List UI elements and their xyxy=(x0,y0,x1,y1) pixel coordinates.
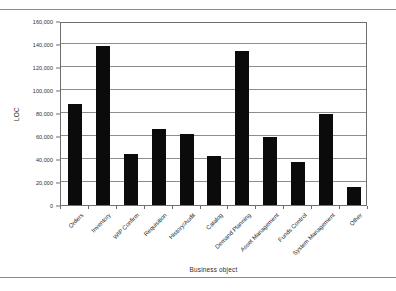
y-tick-label: 160,000 xyxy=(33,19,53,25)
bar-slot xyxy=(61,23,89,205)
bar xyxy=(207,156,221,205)
x-tick-mark xyxy=(255,206,256,209)
bar-group xyxy=(61,23,366,205)
bar xyxy=(235,51,249,205)
x-tick-label-text: Catalog xyxy=(205,212,224,231)
y-tick-label: 20,000 xyxy=(36,180,53,186)
y-axis-title: LOC xyxy=(13,107,20,121)
bar-slot xyxy=(89,23,117,205)
bar-slot xyxy=(228,23,256,205)
x-tick-label-text: Requisition xyxy=(143,212,168,237)
x-tick-mark xyxy=(367,206,368,209)
x-tick-mark xyxy=(172,206,173,209)
x-tick-mark xyxy=(116,206,117,209)
x-tick-mark xyxy=(311,206,312,209)
bar-slot xyxy=(173,23,201,205)
x-tick-label-text: History/Audit xyxy=(168,212,196,240)
y-tick-label: 100,000 xyxy=(33,88,53,94)
bar xyxy=(263,137,277,205)
bar xyxy=(124,154,138,205)
bar-slot xyxy=(256,23,284,205)
x-axis-title: Business object xyxy=(60,266,367,273)
bar xyxy=(319,114,333,205)
bar-slot xyxy=(117,23,145,205)
x-tick-label-text: Funds Control xyxy=(277,212,308,243)
page-rule-bottom xyxy=(0,277,396,278)
x-tick-label-text: Inventory xyxy=(91,212,113,234)
x-tick-mark xyxy=(60,206,61,209)
bar-slot xyxy=(201,23,229,205)
bar-chart-figure: LOC 020,00040,00060,00080,000100,000120,… xyxy=(0,10,396,276)
y-tick-label: 80,000 xyxy=(36,111,53,117)
bar xyxy=(96,46,110,205)
x-tick-label-text: WIP Confirm xyxy=(112,212,140,240)
y-axis: LOC 020,00040,00060,00080,000100,000120,… xyxy=(0,22,60,206)
y-tick-label: 0 xyxy=(50,203,53,209)
bar-slot xyxy=(312,23,340,205)
x-tick-mark xyxy=(88,206,89,209)
bar xyxy=(180,134,194,205)
x-tick-mark xyxy=(283,206,284,209)
bar xyxy=(152,129,166,205)
bar xyxy=(347,187,361,205)
bar xyxy=(68,104,82,205)
x-tick-mark xyxy=(339,206,340,209)
y-tick-label: 120,000 xyxy=(33,65,53,71)
bar xyxy=(291,162,305,205)
x-tick-label-text: Orders xyxy=(67,212,84,229)
y-tick-label: 60,000 xyxy=(36,134,53,140)
x-tick-mark xyxy=(200,206,201,209)
x-tick-mark xyxy=(227,206,228,209)
y-tick-label: 40,000 xyxy=(36,157,53,163)
bar-slot xyxy=(145,23,173,205)
plot-area xyxy=(60,22,367,206)
x-axis: OrdersInventoryWIP ConfirmRequisitionHis… xyxy=(60,206,367,268)
y-tick-label: 140,000 xyxy=(33,42,53,48)
bar-slot xyxy=(340,23,368,205)
bar-slot xyxy=(284,23,312,205)
x-tick-mark xyxy=(144,206,145,209)
x-tick-label-text: Other xyxy=(349,212,364,227)
